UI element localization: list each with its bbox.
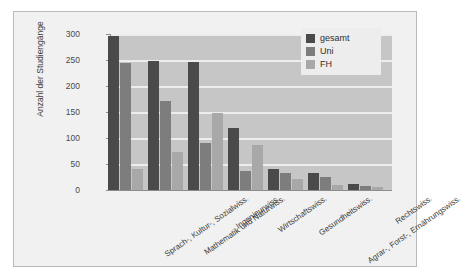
bar: [240, 171, 251, 190]
bar: [132, 169, 143, 190]
legend-swatch-uni: [306, 47, 315, 56]
legend-label-gesamt: gesamt: [320, 34, 350, 43]
bar: [360, 186, 371, 190]
bar: [292, 179, 303, 190]
chart-legend: gesamt Uni FH: [301, 28, 381, 75]
legend-label-fh: FH: [320, 60, 332, 69]
y-axis-title: Anzahl der Studiengänge: [35, 0, 45, 139]
y-tick-label: 50: [40, 160, 80, 169]
y-tick-label: 200: [40, 82, 80, 91]
legend-item[interactable]: FH: [306, 58, 376, 71]
y-tick-label: 250: [40, 56, 80, 65]
bar: [280, 173, 291, 190]
bar: [228, 128, 239, 190]
y-tick-label: 150: [40, 108, 80, 117]
bar: [372, 187, 383, 190]
y-tick-label: 100: [40, 134, 80, 143]
bar: [252, 145, 263, 190]
y-tick-mark: [106, 190, 110, 191]
bar: [308, 173, 319, 190]
bar: [148, 61, 159, 190]
legend-item[interactable]: Uni: [306, 45, 376, 58]
bar: [160, 101, 171, 190]
bar: [320, 177, 331, 190]
bar: [188, 62, 199, 190]
y-tick-label: 0: [40, 186, 80, 195]
legend-swatch-fh: [306, 60, 315, 69]
legend-swatch-gesamt: [306, 34, 315, 43]
legend-label-uni: Uni: [320, 47, 334, 56]
bar: [108, 36, 119, 190]
bar: [332, 185, 343, 190]
bar: [212, 113, 223, 190]
bar: [268, 169, 279, 190]
legend-item[interactable]: gesamt: [306, 32, 376, 45]
y-tick-label: 300: [40, 30, 80, 39]
x-axis-line: [110, 190, 392, 191]
bar: [120, 63, 131, 190]
chart-figure: Anzahl der Studiengänge 0501001502002503…: [13, 11, 417, 267]
bar: [348, 184, 359, 190]
bar: [200, 143, 211, 190]
bar: [172, 152, 183, 190]
